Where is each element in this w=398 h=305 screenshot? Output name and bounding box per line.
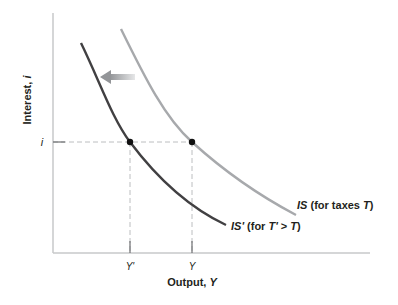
is-curve [121,29,296,215]
is-prime-curve-label: IS' (for T' > T) [231,220,301,232]
tick-label-y-prime: Y' [126,261,136,272]
tick-label-i: i [41,136,44,148]
tick-label-y: Y [189,261,197,272]
point-is [189,139,195,145]
point-is-prime [127,139,133,145]
shift-left-arrow-icon [100,70,135,84]
y-axis-title: Interest, i [21,75,33,125]
is-prime-curve [81,43,226,225]
is-curve-label: IS (for taxes T) [297,199,374,211]
is-curve-chart: i Y' Y Output, Y Interest, i IS (for tax… [0,0,398,305]
x-axis-title: Output, Y [167,276,218,288]
